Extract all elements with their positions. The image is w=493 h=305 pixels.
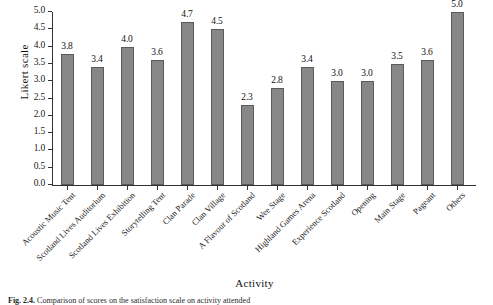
x-axis-tick-mark <box>247 186 248 190</box>
x-axis-category-label: Experience Scotland <box>290 190 347 247</box>
x-axis-category-label: Main Stage <box>372 190 407 225</box>
bar-group: 4.0 <box>121 47 134 185</box>
bar-group: 2.3 <box>241 105 254 185</box>
bar-value-label: 2.3 <box>241 92 252 102</box>
x-axis-line <box>52 185 476 186</box>
x-axis-title: Activity <box>0 277 493 289</box>
bar-value-label: 3.6 <box>151 47 162 57</box>
bar-group: 3.4 <box>301 67 314 185</box>
bar-group: 3.5 <box>391 64 404 185</box>
bar-group: 4.5 <box>211 29 224 185</box>
bar-group: 3.0 <box>361 81 374 185</box>
x-axis-tick-mark <box>397 186 398 190</box>
bar-group: 4.7 <box>181 22 194 185</box>
bar-value-label: 3.4 <box>91 54 102 64</box>
y-axis-tick-label: 0.0 <box>34 178 45 188</box>
bar-group: 3.8 <box>61 54 74 185</box>
bar-value-label: 3.8 <box>61 41 72 51</box>
plot-area: 3.83.44.03.64.74.52.32.83.43.03.03.53.65… <box>52 12 472 185</box>
bar <box>61 54 74 185</box>
y-axis-tick-label: 4.0 <box>34 40 45 50</box>
bar-group: 2.8 <box>271 88 284 185</box>
bar <box>151 60 164 185</box>
bar <box>361 81 374 185</box>
bar-value-label: 3.5 <box>391 51 402 61</box>
y-axis-tick-label: 3.5 <box>34 57 45 67</box>
figure-bar-chart: 0.00.51.01.52.02.53.03.54.04.55.0 Likert… <box>0 0 493 305</box>
bar <box>181 22 194 185</box>
bar <box>241 105 254 185</box>
bar <box>271 88 284 185</box>
y-axis-tick-label: 3.0 <box>34 74 45 84</box>
x-axis-tick-mark <box>187 186 188 190</box>
y-axis-tick-label: 1.0 <box>34 143 45 153</box>
bar-group: 5.0 <box>451 12 464 185</box>
bar <box>91 67 104 185</box>
x-axis-tick-mark <box>277 186 278 190</box>
bar-value-label: 4.0 <box>121 34 132 44</box>
y-axis-title: Likert scale <box>18 12 30 132</box>
bar-group: 3.6 <box>421 60 434 185</box>
x-axis-category-label: A Flavour of Scotland <box>196 190 257 251</box>
bar-value-label: 3.4 <box>301 54 312 64</box>
bar-value-label: 3.0 <box>361 68 372 78</box>
x-axis-tick-mark <box>457 186 458 190</box>
x-axis-tick-mark <box>67 186 68 190</box>
y-axis-tick-label: 5.0 <box>34 5 45 15</box>
x-axis-category-label: Opening <box>349 190 377 218</box>
y-axis-tick-label: 4.5 <box>34 22 45 32</box>
y-axis-tick-label: 1.5 <box>34 126 45 136</box>
x-axis-category-label: Pageant <box>411 190 437 216</box>
x-axis-tick-mark <box>217 186 218 190</box>
bar <box>451 12 464 185</box>
bar-value-label: 5.0 <box>451 0 462 9</box>
x-axis-tick-mark <box>337 186 338 190</box>
bar-value-label: 4.7 <box>181 9 192 19</box>
bar <box>121 47 134 185</box>
bar <box>331 81 344 185</box>
bar <box>301 67 314 185</box>
bar <box>421 60 434 185</box>
bar-group: 3.0 <box>331 81 344 185</box>
x-axis-category-label: Acoustic Music Tent <box>20 190 78 248</box>
x-axis-tick-mark <box>97 186 98 190</box>
x-axis-category-label: Others <box>444 190 467 213</box>
bar-value-label: 3.0 <box>331 68 342 78</box>
bar-value-label: 4.5 <box>211 16 222 26</box>
bar <box>391 64 404 185</box>
x-axis-title-text: Activity <box>235 277 273 289</box>
y-axis-tick-label: 2.5 <box>34 92 45 102</box>
bar-value-label: 2.8 <box>271 75 282 85</box>
x-axis-tick-mark <box>127 186 128 190</box>
bar-group: 3.6 <box>151 60 164 185</box>
x-axis-tick-mark <box>307 186 308 190</box>
x-axis-tick-mark <box>157 186 158 190</box>
y-axis-tick-label: 2.0 <box>34 109 45 119</box>
bar-value-label: 3.6 <box>421 47 432 57</box>
bar <box>211 29 224 185</box>
y-axis-tick-label: 0.5 <box>34 161 45 171</box>
figure-caption-label: Fig. 2.4. <box>8 296 35 305</box>
x-axis-tick-mark <box>367 186 368 190</box>
figure-caption-text: Comparison of scores on the satisfaction… <box>37 296 250 305</box>
x-axis-tick-mark <box>427 186 428 190</box>
bar-group: 3.4 <box>91 67 104 185</box>
figure-caption: Fig. 2.4. Comparison of scores on the sa… <box>8 296 488 305</box>
